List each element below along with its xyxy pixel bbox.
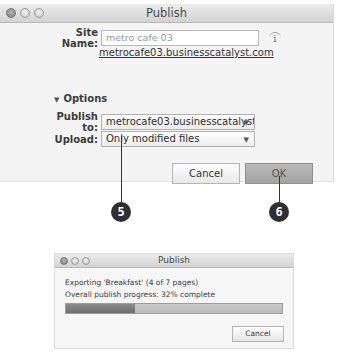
chevron-down-icon: ▼ — [244, 133, 249, 147]
progress-bar — [65, 303, 283, 314]
title-bar: Publish — [0, 4, 333, 23]
cancel-publish-button[interactable]: Cancel — [232, 326, 284, 342]
callout-badge-6: 6 — [269, 202, 289, 222]
publish-to-select[interactable]: metrocafe03.businesscatalyst.c... ▼ — [101, 114, 255, 130]
upload-label: Upload: — [48, 134, 98, 145]
dialog-title: Publish — [0, 6, 333, 20]
site-name-input[interactable]: metro cafe 03 — [101, 30, 259, 46]
overall-progress-text: Overall publish progress: 32% complete — [65, 290, 215, 299]
options-disclosure[interactable]: ▼Options — [54, 93, 107, 104]
upload-select[interactable]: Only modified files ▼ — [101, 131, 255, 147]
title-bar: Publish — [55, 254, 293, 268]
callout-badge-5: 5 — [111, 202, 131, 222]
progress-bar-fill — [66, 304, 135, 313]
publish-to-label: Publish to: — [48, 111, 98, 133]
export-status-text: Exporting 'Breakfast' (4 of 7 pages) — [65, 278, 198, 287]
cancel-button[interactable]: Cancel — [172, 163, 240, 184]
upload-row: Upload: Only modified files ▼ — [48, 131, 255, 147]
disclosure-triangle-icon: ▼ — [54, 96, 59, 104]
callout-line-6 — [279, 176, 280, 204]
chevron-down-icon: ▼ — [244, 116, 249, 130]
site-name-label: Site Name: — [50, 27, 98, 49]
site-url-link[interactable]: metrocafe03.businesscatalyst.com — [99, 47, 274, 58]
publish-to-value: metrocafe03.businesscatalyst.c... — [106, 116, 255, 127]
info-icon[interactable]: i — [269, 32, 281, 44]
dialog-title: Publish — [55, 255, 293, 265]
publish-to-row: Publish to: metrocafe03.businesscatalyst… — [48, 111, 255, 133]
publish-dialog: Publish Site Name: metro cafe 03 i metro… — [0, 4, 334, 182]
site-name-row: Site Name: metro cafe 03 i — [50, 27, 281, 49]
progress-dialog: Publish Exporting 'Breakfast' (4 of 7 pa… — [54, 253, 294, 349]
options-label: Options — [63, 93, 107, 104]
callout-line-5 — [121, 136, 122, 204]
